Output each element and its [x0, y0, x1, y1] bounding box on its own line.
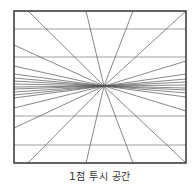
perspective-rays: [14, 11, 186, 163]
perspective-ray: [28, 86, 104, 163]
perspective-ray: [86, 86, 104, 163]
diagram-caption: 1점 투시 공간: [0, 168, 195, 183]
perspective-ray: [28, 11, 104, 86]
perspective-ray: [104, 86, 133, 163]
perspective-ray: [104, 11, 186, 86]
perspective-ray: [104, 11, 133, 86]
perspective-ray: [104, 86, 186, 163]
perspective-ray: [86, 11, 104, 86]
one-point-perspective-diagram: [0, 0, 195, 165]
